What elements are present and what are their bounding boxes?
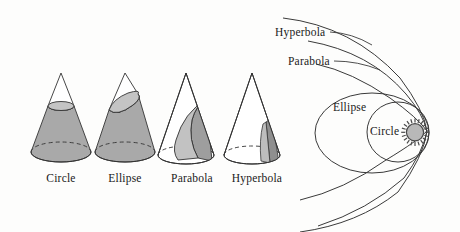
- orbit-label-circle: Circle: [370, 125, 399, 137]
- cone-circle-cut-plane: [48, 102, 74, 111]
- cone-circle: [31, 73, 91, 162]
- cone-label-hyperbola: Hyperbola: [232, 172, 282, 184]
- cone-label-parabola: Parabola: [171, 172, 213, 184]
- leader-line-hyperbola: [330, 32, 372, 45]
- cone-label-ellipse: Ellipse: [108, 172, 141, 184]
- orbit-label-ellipse: Ellipse: [333, 101, 366, 113]
- cone-circle-body: [31, 106, 91, 162]
- orbit-diagram: [283, 18, 429, 232]
- cone-label-circle: Circle: [46, 172, 75, 184]
- cone-hyperbola: [224, 73, 280, 164]
- conic-sections-figure: Circle Ellipse Parabola Hyperbola Hyperb…: [0, 0, 460, 232]
- sun-disc: [406, 124, 423, 141]
- cone-parabola: [158, 73, 214, 164]
- orbit-label-parabola: Parabola: [288, 55, 330, 67]
- cone-ellipse: [95, 73, 155, 162]
- figure-canvas: [0, 0, 460, 232]
- orbit-label-hyperbola: Hyperbola: [275, 26, 325, 38]
